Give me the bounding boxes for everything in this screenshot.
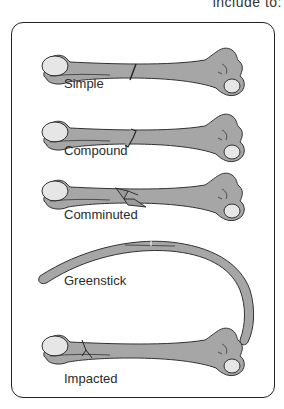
label-comminuted: Comminuted [64,207,138,222]
label-simple: Simple [64,76,104,91]
label-compound: Compound [64,143,128,158]
fracture-diagram [0,0,284,409]
label-impacted: Impacted [64,371,117,386]
bone-impacted [42,328,244,375]
label-greenstick: Greenstick [64,273,126,288]
